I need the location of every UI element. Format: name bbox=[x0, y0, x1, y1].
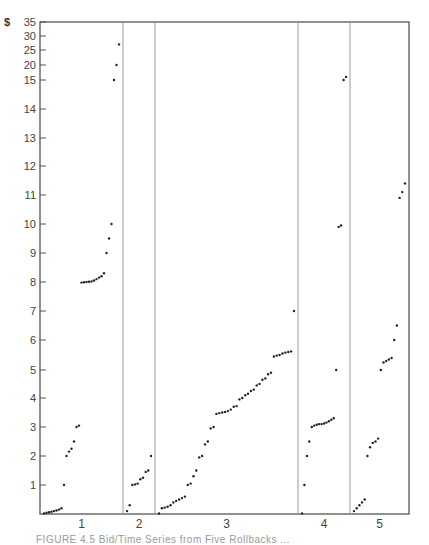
data-point bbox=[175, 500, 177, 502]
data-point bbox=[253, 388, 255, 390]
data-point bbox=[244, 394, 246, 396]
data-point bbox=[290, 350, 292, 352]
data-point bbox=[273, 355, 275, 357]
data-point bbox=[73, 440, 75, 442]
section-dividers bbox=[123, 22, 350, 514]
data-point bbox=[330, 419, 332, 421]
data-point bbox=[404, 182, 406, 184]
data-point bbox=[108, 237, 110, 239]
section-label: 4 bbox=[321, 517, 328, 531]
scatter-chart: 12345678910111213141520253035$ 12345 bbox=[0, 0, 429, 545]
data-point bbox=[75, 426, 77, 428]
section-label: 1 bbox=[78, 517, 85, 531]
data-point bbox=[306, 455, 308, 457]
data-point bbox=[388, 358, 390, 360]
data-point bbox=[204, 443, 206, 445]
data-point bbox=[105, 252, 107, 254]
data-point bbox=[380, 369, 382, 371]
y-tick-label: 14 bbox=[24, 103, 36, 115]
data-point bbox=[241, 397, 243, 399]
data-point bbox=[110, 223, 112, 225]
data-point bbox=[115, 64, 117, 66]
data-point bbox=[316, 424, 318, 426]
data-point bbox=[311, 426, 313, 428]
y-tick-label: 7 bbox=[30, 305, 36, 317]
data-point bbox=[278, 354, 280, 356]
y-tick-label: 3 bbox=[30, 421, 36, 433]
data-point bbox=[161, 507, 163, 509]
data-point bbox=[369, 446, 371, 448]
data-point bbox=[372, 442, 374, 444]
data-point bbox=[247, 393, 249, 395]
y-tick-label: 5 bbox=[30, 364, 36, 376]
data-point bbox=[98, 276, 100, 278]
y-tick-label: 2 bbox=[30, 450, 36, 462]
data-point bbox=[366, 455, 368, 457]
data-point bbox=[342, 79, 344, 81]
data-point bbox=[250, 390, 252, 392]
data-point bbox=[356, 507, 358, 509]
data-point bbox=[238, 398, 240, 400]
plot-frame bbox=[40, 22, 409, 514]
data-point bbox=[398, 197, 400, 199]
data-point bbox=[287, 351, 289, 353]
y-tick-label: 13 bbox=[24, 132, 36, 144]
data-point bbox=[393, 339, 395, 341]
data-point bbox=[70, 448, 72, 450]
data-point bbox=[80, 281, 82, 283]
y-tick-label: 10 bbox=[24, 218, 36, 230]
data-point bbox=[43, 512, 45, 514]
data-point bbox=[45, 512, 47, 514]
data-point bbox=[88, 281, 90, 283]
data-point bbox=[134, 483, 136, 485]
data-point bbox=[189, 482, 191, 484]
data-point bbox=[335, 369, 337, 371]
data-point bbox=[281, 352, 283, 354]
data-point bbox=[164, 506, 166, 508]
y-tick-label: 11 bbox=[25, 189, 36, 201]
data-point bbox=[358, 504, 360, 506]
section-label: 5 bbox=[376, 517, 383, 531]
data-point bbox=[284, 351, 286, 353]
data-point bbox=[113, 79, 115, 81]
data-point bbox=[338, 226, 340, 228]
data-point bbox=[261, 379, 263, 381]
data-point bbox=[158, 512, 160, 514]
data-point bbox=[267, 373, 269, 375]
data-point bbox=[323, 422, 325, 424]
data-point bbox=[353, 510, 355, 512]
data-point bbox=[65, 455, 67, 457]
currency-symbol: $ bbox=[4, 16, 10, 28]
data-point bbox=[276, 354, 278, 356]
data-point bbox=[235, 405, 237, 407]
data-point bbox=[55, 509, 57, 511]
data-point bbox=[90, 280, 92, 282]
data-point bbox=[364, 498, 366, 500]
y-tick-label: 4 bbox=[30, 392, 36, 404]
data-point bbox=[382, 361, 384, 363]
data-point bbox=[230, 408, 232, 410]
section-label: 2 bbox=[136, 517, 143, 531]
data-point bbox=[385, 360, 387, 362]
y-tick-label: 20 bbox=[24, 59, 36, 71]
data-point bbox=[377, 437, 379, 439]
data-point bbox=[210, 427, 212, 429]
data-point bbox=[313, 424, 315, 426]
data-point bbox=[333, 417, 335, 419]
data-point bbox=[100, 275, 102, 277]
data-point bbox=[181, 497, 183, 499]
data-point bbox=[308, 440, 310, 442]
data-point bbox=[147, 469, 149, 471]
data-points bbox=[43, 43, 406, 514]
data-point bbox=[396, 324, 398, 326]
data-point bbox=[184, 495, 186, 497]
data-point bbox=[145, 471, 147, 473]
data-point bbox=[215, 413, 217, 415]
data-point bbox=[264, 377, 266, 379]
data-point bbox=[192, 475, 194, 477]
data-point bbox=[60, 507, 62, 509]
data-point bbox=[139, 478, 141, 480]
data-point bbox=[227, 410, 229, 412]
data-point bbox=[142, 477, 144, 479]
data-point bbox=[53, 510, 55, 512]
